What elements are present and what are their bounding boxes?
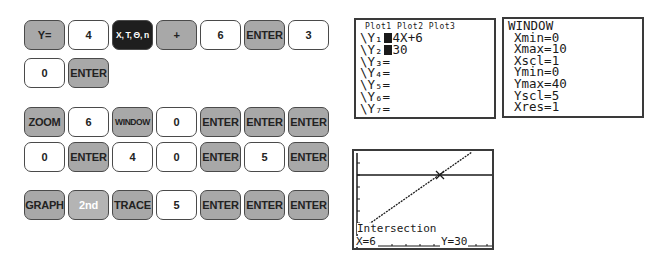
diagonal-line-y1	[359, 152, 472, 231]
key-5[interactable]: 5	[156, 190, 197, 220]
equation-y7: \Y₇=	[360, 103, 490, 115]
equation-name: \Y₇	[360, 101, 383, 116]
x-t-theta-n-key[interactable]: X, T, Θ, n	[112, 20, 153, 50]
plus-key[interactable]: +	[156, 20, 197, 50]
key-3[interactable]: 3	[288, 20, 329, 50]
enter-key[interactable]: ENTER	[244, 107, 285, 137]
key-5[interactable]: 5	[244, 142, 285, 172]
enter-key[interactable]: ENTER	[244, 190, 285, 220]
enter-key[interactable]: ENTER	[244, 20, 285, 50]
key-0[interactable]: 0	[24, 142, 65, 172]
window-key[interactable]: WINDOW	[112, 107, 153, 137]
trace-key[interactable]: TRACE	[112, 190, 153, 220]
enter-key[interactable]: ENTER	[288, 142, 329, 172]
key-6[interactable]: 6	[200, 20, 241, 50]
window-xres: Xres=1	[508, 101, 638, 113]
x-axis-ticks	[378, 244, 492, 246]
second-key[interactable]: 2nd	[68, 190, 109, 220]
enter-key[interactable]: ENTER	[68, 58, 109, 88]
graph-screen: Intersection X=6 Y=30	[352, 149, 494, 250]
key-0[interactable]: 0	[24, 58, 65, 88]
enter-key[interactable]: ENTER	[200, 142, 241, 172]
equation-expr: 30	[393, 42, 408, 57]
y-readout: Y=30	[441, 236, 468, 247]
key-6[interactable]: 6	[68, 107, 109, 137]
key-4[interactable]: 4	[112, 142, 153, 172]
enter-key[interactable]: ENTER	[200, 190, 241, 220]
key-4[interactable]: 4	[68, 20, 109, 50]
enter-key[interactable]: ENTER	[288, 190, 329, 220]
graph-key[interactable]: GRAPH	[24, 190, 65, 220]
enter-key[interactable]: ENTER	[288, 107, 329, 137]
key-0[interactable]: 0	[156, 142, 197, 172]
window-settings-screen: WINDOW Xmin=0 Xmax=10 Xscl=1 Ymin=0 Ymax…	[502, 17, 644, 118]
key-0[interactable]: 0	[156, 107, 197, 137]
y-editor-screen: Plot1 Plot2 Plot3 \Y₁4X+6 \Y₂30 \Y₃= \Y₄…	[354, 18, 496, 119]
x-readout: X=6	[356, 236, 376, 247]
enter-key[interactable]: ENTER	[200, 107, 241, 137]
y-equals-key[interactable]: Y=	[24, 20, 65, 50]
equation-expr: =	[383, 101, 391, 116]
enter-key[interactable]: ENTER	[68, 142, 109, 172]
intersection-label: Intersection	[357, 223, 438, 234]
selected-equals-marker	[384, 33, 392, 43]
zoom-key[interactable]: ZOOM	[24, 107, 65, 137]
